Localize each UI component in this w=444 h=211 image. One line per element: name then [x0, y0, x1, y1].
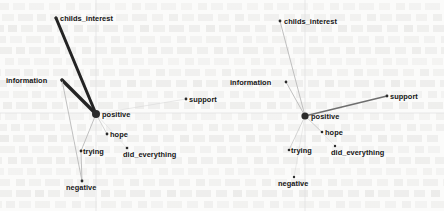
- node-label-positive: positive: [311, 113, 339, 120]
- graph-node-negative[interactable]: [293, 176, 295, 178]
- graph-node-hope[interactable]: [321, 131, 324, 134]
- graph-edge: [62, 80, 96, 114]
- graph-node-childs_interest[interactable]: [55, 17, 58, 20]
- node-label-hope: hope: [110, 131, 128, 138]
- graph-edge: [81, 114, 96, 151]
- node-label-childs_interest: childs_interest: [284, 18, 337, 25]
- graph-node-support[interactable]: [386, 95, 389, 98]
- graph-node-information[interactable]: [285, 81, 288, 84]
- graph-node-trying[interactable]: [80, 150, 83, 153]
- node-label-did_everything: did_everything: [123, 151, 176, 158]
- node-label-support: support: [390, 93, 418, 100]
- graph-node-information[interactable]: [61, 79, 64, 82]
- graph-edge: [289, 116, 305, 150]
- node-label-information: information: [6, 77, 47, 84]
- node-label-information: information: [230, 79, 271, 86]
- graph-node-positive[interactable]: [301, 112, 308, 119]
- graph-node-hope[interactable]: [106, 133, 109, 136]
- node-label-childs_interest: childs_interest: [60, 15, 113, 22]
- network-panel-left: childs_interestinformationpositivesuppor…: [0, 0, 222, 211]
- graph-node-childs_interest[interactable]: [279, 20, 282, 23]
- graph-node-did_everything[interactable]: [334, 145, 336, 147]
- graph-edge: [56, 18, 96, 114]
- graph-node-did_everything[interactable]: [126, 147, 129, 150]
- node-label-trying: trying: [291, 147, 312, 154]
- network-graph-right: [222, 0, 444, 211]
- node-label-positive: positive: [102, 111, 130, 118]
- node-label-trying: trying: [83, 148, 104, 155]
- node-label-hope: hope: [325, 129, 343, 136]
- graph-edge: [286, 82, 305, 116]
- graph-node-support[interactable]: [185, 98, 188, 101]
- graph-edge: [280, 21, 305, 116]
- graph-node-trying[interactable]: [288, 149, 291, 152]
- graph-node-negative[interactable]: [81, 180, 84, 183]
- network-graph-left: [0, 0, 222, 211]
- node-label-negative: negative: [66, 184, 96, 191]
- node-label-support: support: [189, 96, 217, 103]
- figure-canvas: childs_interestinformationpositivesuppor…: [0, 0, 444, 211]
- node-label-negative: negative: [278, 180, 308, 187]
- network-panel-right: childs_interestinformationpositivesuppor…: [222, 0, 444, 211]
- graph-node-positive[interactable]: [92, 110, 100, 118]
- node-label-did_everything: did_everything: [331, 149, 384, 156]
